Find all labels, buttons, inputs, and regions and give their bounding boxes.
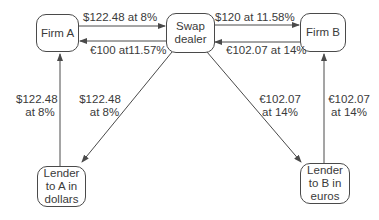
label-lender-a-to-a-line1: $122.48: [16, 93, 56, 106]
node-lender-b-label: Lender to B in euros: [306, 164, 344, 203]
label-dealer-to-lender-a-line1: $122.48: [78, 93, 122, 106]
label-dealer-to-lender-b: €102.07 at 14%: [258, 93, 302, 119]
node-lender-b: Lender to B in euros: [300, 163, 350, 204]
label-dealer-to-a: €100 at11.57%: [90, 44, 167, 57]
node-firm-a-label: Firm A: [41, 27, 74, 40]
node-firm-b-label: Firm B: [306, 26, 340, 39]
node-swap-dealer-label: Swap dealer: [170, 20, 211, 46]
label-lender-a-to-a-line2: at 8%: [16, 106, 56, 119]
node-firm-b: Firm B: [300, 13, 346, 52]
label-lender-a-to-a: $122.48 at 8%: [16, 93, 56, 119]
label-dealer-to-lender-a: $122.48 at 8%: [78, 93, 122, 119]
label-lender-b-to-b: €102.07 at 14%: [327, 93, 371, 119]
label-dealer-to-b: $120 at 11.58%: [215, 11, 295, 24]
label-dealer-to-lender-b-line1: €102.07: [258, 93, 302, 106]
node-swap-dealer: Swap dealer: [166, 13, 215, 53]
label-dealer-to-lender-a-line2: at 8%: [78, 106, 122, 119]
node-lender-a: Lender to A in dollars: [37, 166, 86, 207]
label-dealer-to-lender-b-line2: at 14%: [258, 106, 302, 119]
label-lender-b-to-b-line2: at 14%: [327, 106, 371, 119]
label-b-to-dealer: €102.07 at 14%: [226, 44, 307, 57]
label-a-to-dealer: $122.48 at 8%: [83, 11, 157, 24]
label-lender-b-to-b-line1: €102.07: [327, 93, 371, 106]
node-lender-a-label: Lender to A in dollars: [42, 167, 81, 206]
node-firm-a: Firm A: [36, 14, 79, 52]
